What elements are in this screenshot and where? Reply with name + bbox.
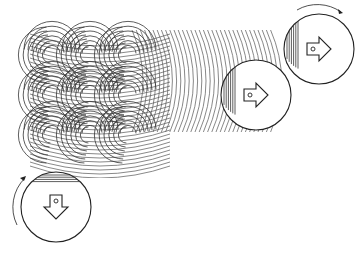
head-top-right <box>284 5 354 84</box>
diagram-svg <box>0 0 356 257</box>
head-middle <box>221 60 291 130</box>
diagram-canvas: Rotating scanning heads producing overla… <box>0 0 356 257</box>
head-bottom-left <box>13 172 91 242</box>
rotation-arrow-icon <box>297 5 341 12</box>
